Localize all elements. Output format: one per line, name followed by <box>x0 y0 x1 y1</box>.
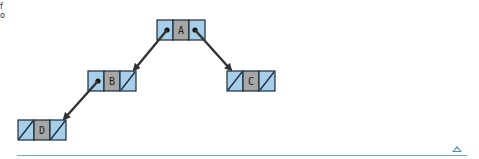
node-label: B <box>109 76 115 87</box>
node-label: D <box>39 125 45 136</box>
tree-node-d: D <box>18 120 66 140</box>
edge-arrow-icon <box>64 81 98 119</box>
tree-node-a: A <box>157 20 205 40</box>
edge-arrow-icon <box>195 30 231 70</box>
edge-arrow-icon <box>134 30 167 70</box>
horizontal-rule <box>17 155 467 156</box>
scroll-up-icon[interactable] <box>452 146 462 152</box>
tree-node-c: C <box>227 71 275 91</box>
node-label: C <box>248 76 254 87</box>
tree-node-b: B <box>88 71 136 91</box>
node-label: A <box>178 25 184 36</box>
binary-tree-diagram: ABCD <box>0 0 479 159</box>
